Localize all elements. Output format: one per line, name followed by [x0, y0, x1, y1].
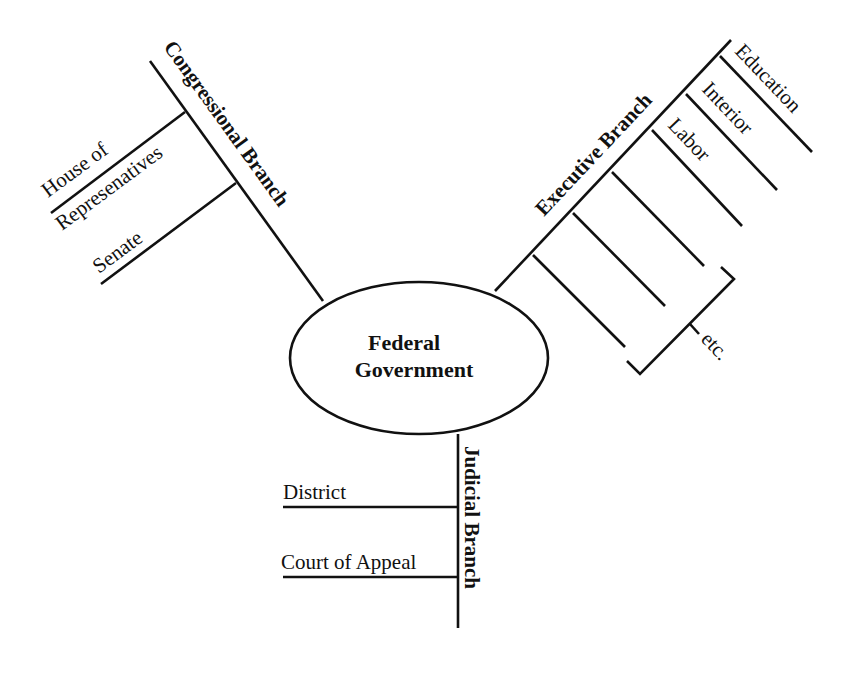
- executive-branch: Executive Branch Education Interior Labo…: [495, 39, 812, 374]
- executive-branch-label: Executive Branch: [530, 88, 657, 221]
- congressional-branch-label: Congressional Branch: [159, 36, 295, 211]
- center-node: Federal Government: [290, 282, 548, 434]
- district-label: District: [283, 480, 346, 504]
- federal-government-diagram: Federal Government Congressional Branch …: [0, 0, 852, 673]
- court-of-appeal-label: Court of Appeal: [281, 550, 416, 574]
- executive-item-line-6: [533, 255, 625, 347]
- senate-label: Senate: [88, 225, 147, 278]
- judicial-branch: Judicial Branch District Court of Appeal: [281, 434, 484, 628]
- center-label-line2: Government: [355, 357, 474, 382]
- executive-item-label-labor: Labor: [663, 113, 715, 166]
- executive-item-line-4: [612, 172, 704, 266]
- executive-item-line-5: [573, 213, 665, 306]
- etc-label: etc.: [696, 327, 734, 365]
- etc-tick: [690, 324, 699, 334]
- congressional-branch: Congressional Branch House of Represenat…: [37, 36, 323, 301]
- congressional-main-line: [150, 61, 323, 301]
- center-label-line1: Federal: [368, 330, 440, 355]
- judicial-branch-label: Judicial Branch: [460, 446, 484, 589]
